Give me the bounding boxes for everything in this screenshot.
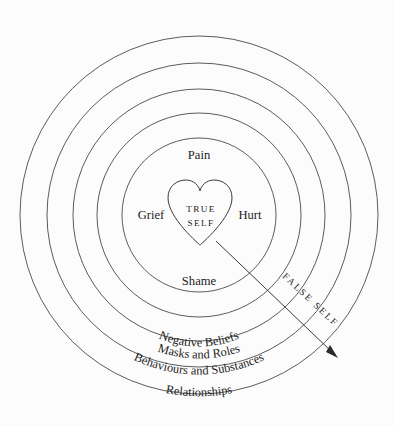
false-self-label-text: FALSE SELF [281,271,341,329]
false-self-label: FALSE SELF [281,271,341,329]
core-label-line1: TRUE [186,204,215,214]
core-label-line2: SELF [188,218,215,228]
inner-label-pain: Pain [188,148,211,162]
diagram-canvas: TRUE SELF Pain Grief Hurt Shame Negative… [0,0,394,426]
inner-label-hurt: Hurt [238,208,262,222]
ring-label-relationships: Relationships [165,382,233,399]
false-self-arrow-head [326,345,338,358]
inner-label-shame: Shame [182,274,217,288]
inner-label-grief: Grief [138,208,165,222]
concentric-circles-diagram: TRUE SELF Pain Grief Hurt Shame Negative… [0,0,394,426]
ring-label-relationships-text: Relationships [165,382,233,399]
